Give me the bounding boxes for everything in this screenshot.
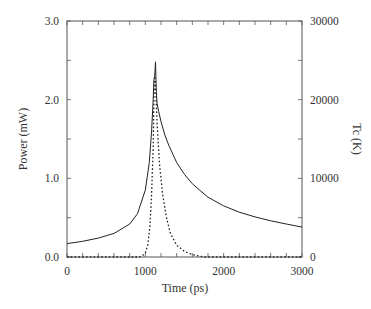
y-tick-label: 2.0 — [45, 94, 60, 106]
y2-tick-label: 30000 — [310, 15, 339, 27]
plot-frame — [67, 21, 302, 257]
chart: 01000200030000.01.02.03.0010000200003000… — [0, 0, 371, 309]
tick-labels: 01000200030000.01.02.03.0010000200003000… — [45, 15, 339, 277]
y2-tick-label: 0 — [310, 251, 316, 263]
x-tick-label: 0 — [64, 265, 70, 277]
y-axis-title: Power (mW) — [16, 108, 30, 170]
data-series — [67, 62, 302, 257]
power-curve — [67, 62, 302, 244]
x-axis-title: Time (ps) — [162, 281, 209, 295]
axis-ticks — [67, 21, 302, 257]
y2-axis-title: Tc (K) — [350, 123, 364, 154]
y2-tick-label: 20000 — [310, 94, 339, 106]
y-tick-label: 3.0 — [45, 15, 60, 27]
x-tick-label: 2000 — [212, 265, 235, 277]
y-tick-label: 1.0 — [45, 172, 60, 184]
x-tick-label: 1000 — [134, 265, 157, 277]
y-tick-label: 0.0 — [45, 251, 60, 263]
y2-tick-label: 10000 — [310, 172, 339, 184]
plot-border — [67, 21, 302, 257]
x-tick-label: 3000 — [291, 265, 314, 277]
tc-curve — [67, 76, 302, 257]
